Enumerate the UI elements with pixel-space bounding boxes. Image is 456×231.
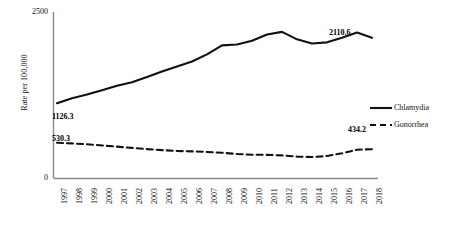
legend-label-gonorrhea: Gonorrhea [394, 121, 428, 129]
x-axis-tick-2002: 2002 [135, 188, 144, 204]
x-axis-tick-2016: 2016 [345, 188, 354, 204]
y-axis-tick-min: 0 [14, 173, 48, 182]
x-axis-tick-2001: 2001 [120, 188, 129, 204]
x-axis-tick-2013: 2013 [300, 188, 309, 204]
data-label-gonorrhea-2018: 434.2 [348, 125, 366, 134]
data-label-chlamydia-2018: 2110.6 [329, 28, 351, 37]
x-axis-tick-2017: 2017 [360, 188, 369, 204]
x-axis-tick-2004: 2004 [165, 188, 174, 204]
legend-swatch-dashed-icon [370, 120, 392, 130]
series-line-chlamydia [57, 32, 372, 103]
x-axis-tick-2005: 2005 [180, 188, 189, 204]
data-label-chlamydia-1997: 1126.3 [52, 112, 74, 121]
chart-container: Rate per 100,000 2500 0 1997199819992000… [0, 0, 456, 231]
x-axis-tick-1998: 1998 [75, 188, 84, 204]
series-line-gonorrhea [57, 143, 372, 157]
legend-label-chlamydia: Chlamydia [394, 104, 429, 112]
x-axis-tick-2007: 2007 [210, 188, 219, 204]
data-label-gonorrhea-1997: 530.3 [52, 134, 70, 143]
x-axis-tick-2015: 2015 [330, 188, 339, 204]
x-axis-tick-2006: 2006 [195, 188, 204, 204]
chart-legend: Chlamydia Gonorrhea [370, 99, 429, 133]
x-axis-tick-1999: 1999 [90, 188, 99, 204]
x-axis-tick-1997: 1997 [60, 188, 69, 204]
x-axis-tick-2012: 2012 [285, 188, 294, 204]
y-axis-tick-max: 2500 [14, 7, 48, 16]
x-axis-tick-2018: 2018 [375, 188, 384, 204]
x-axis-tick-2003: 2003 [150, 188, 159, 204]
legend-item-chlamydia: Chlamydia [370, 99, 429, 116]
x-axis-tick-2000: 2000 [105, 188, 114, 204]
x-axis-tick-2008: 2008 [225, 188, 234, 204]
x-axis-tick-2010: 2010 [255, 188, 264, 204]
legend-swatch-solid-icon [370, 103, 392, 113]
x-axis-tick-2009: 2009 [240, 188, 249, 204]
legend-item-gonorrhea: Gonorrhea [370, 116, 429, 133]
y-axis-label: Rate per 100,000 [20, 23, 29, 143]
x-axis-tick-2011: 2011 [270, 188, 279, 204]
x-axis-tick-2014: 2014 [315, 188, 324, 204]
